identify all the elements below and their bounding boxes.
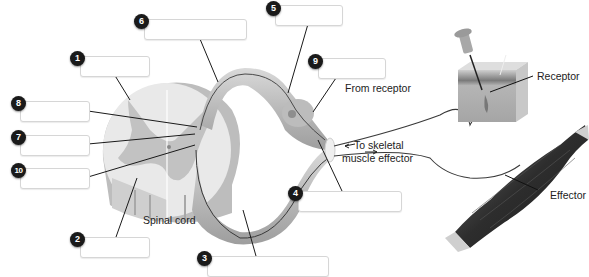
from-receptor-label: From receptor	[345, 82, 411, 94]
number-badge-6: 6	[134, 14, 149, 29]
to-effector-label-line1: To skeletal	[354, 139, 404, 151]
answer-box-5[interactable]	[275, 5, 343, 26]
number-badge-8: 8	[11, 96, 26, 111]
number-badge-2: 2	[70, 232, 85, 247]
number-badge-9: 9	[308, 54, 323, 69]
effector-label: Effector	[550, 189, 586, 201]
answer-box-3[interactable]	[207, 256, 329, 277]
number-badge-4: 4	[288, 186, 303, 201]
answer-box-8[interactable]	[20, 101, 90, 122]
answer-box-1[interactable]	[80, 56, 150, 77]
answer-box-2[interactable]	[80, 237, 150, 258]
answer-box-6[interactable]	[144, 19, 247, 40]
reflex-arc-diagram: 1 2 3 4 5 6 7 8 9 10 Spinal cord From re…	[0, 0, 589, 277]
number-badge-1: 1	[70, 51, 85, 66]
number-badge-7: 7	[11, 130, 26, 145]
to-effector-label-line2: muscle effector	[342, 152, 413, 164]
skin-receptor-illustration	[453, 27, 528, 122]
spinal-cord-label: Spinal cord	[143, 214, 196, 226]
answer-box-10[interactable]	[20, 168, 90, 189]
answer-box-7[interactable]	[20, 135, 90, 156]
answer-box-4[interactable]	[298, 191, 402, 212]
number-badge-10: 10	[11, 163, 26, 178]
number-badge-3: 3	[197, 251, 212, 266]
answer-box-9[interactable]	[318, 58, 386, 79]
receptor-label: Receptor	[537, 70, 580, 82]
number-badge-5: 5	[266, 1, 281, 16]
